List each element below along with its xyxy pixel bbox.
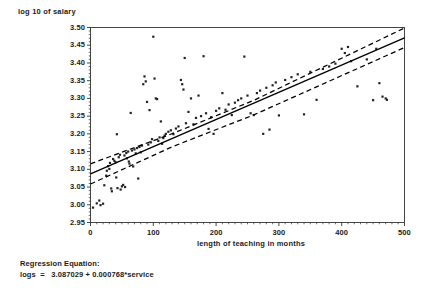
data-point (158, 136, 160, 138)
data-point (250, 112, 252, 114)
data-point (243, 55, 245, 57)
data-point (185, 122, 187, 124)
data-point (103, 184, 105, 186)
data-point (256, 92, 258, 94)
data-point (341, 48, 343, 50)
data-point (344, 52, 346, 54)
data-point (328, 65, 330, 67)
data-point (231, 114, 233, 116)
data-point (272, 84, 274, 86)
regression-equation-heading: Regression Equation: (20, 258, 154, 269)
data-point (167, 131, 169, 133)
data-point (386, 99, 388, 101)
data-point (131, 149, 133, 151)
data-point (151, 138, 153, 140)
data-point (195, 117, 197, 119)
data-point (98, 199, 100, 201)
data-point (246, 94, 248, 96)
data-point (125, 152, 127, 154)
data-point (197, 94, 199, 96)
data-point (334, 63, 336, 65)
data-point (224, 109, 226, 111)
regression-equation-block: Regression Equation: logs = 3.087029 + 0… (20, 258, 154, 280)
data-point (132, 165, 134, 167)
data-point (215, 110, 217, 112)
data-point (240, 97, 242, 99)
data-point (111, 190, 113, 192)
y-tick-label: 3.10 (51, 164, 85, 173)
data-point (237, 99, 239, 101)
data-point (378, 82, 380, 84)
scatter-points (92, 36, 388, 209)
data-point (372, 99, 374, 101)
data-point (303, 113, 305, 115)
data-point (156, 98, 158, 100)
data-point (130, 112, 132, 114)
data-point (182, 88, 184, 90)
y-tick-label: 3.45 (51, 40, 85, 49)
data-point (128, 160, 130, 162)
x-tick-label: 500 (388, 228, 422, 237)
data-point (147, 143, 149, 145)
data-point (284, 79, 286, 81)
data-point (92, 207, 94, 209)
data-point (165, 133, 167, 135)
data-point (137, 177, 139, 179)
x-tick-label: 0 (74, 228, 108, 237)
x-tick-label: 100 (136, 228, 170, 237)
data-point (212, 133, 214, 135)
data-point (123, 154, 125, 156)
data-point (381, 96, 383, 98)
y-tick-label: 3.05 (51, 182, 85, 191)
y-tick-label: 3.15 (51, 147, 85, 156)
y-tick-label: 2.95 (51, 218, 85, 227)
x-tick-label: 200 (199, 228, 233, 237)
data-point (268, 129, 270, 131)
y-tick-label: 3.35 (51, 76, 85, 85)
data-point (181, 83, 183, 85)
data-point (160, 120, 162, 122)
regression-equation-text: logs = 3.087029 + 0.000768*service (20, 269, 154, 280)
data-point (127, 150, 129, 152)
confidence-band-line (91, 48, 405, 185)
data-point (136, 147, 138, 149)
y-tick-label: 3.00 (51, 200, 85, 209)
data-point (221, 92, 223, 94)
data-point (265, 87, 267, 89)
data-point (170, 129, 172, 131)
data-point (120, 188, 122, 190)
data-point (115, 176, 117, 178)
data-point (275, 81, 277, 83)
data-point (187, 111, 189, 113)
data-point (228, 103, 230, 105)
regression-scatter-figure: log 10 of salary 3.503.453.403.353.303.2… (0, 0, 424, 290)
data-point (262, 133, 264, 135)
data-point (128, 163, 130, 165)
data-point (152, 36, 154, 38)
data-point (184, 57, 186, 59)
data-point (202, 55, 204, 57)
data-point (99, 204, 101, 206)
data-point (116, 187, 118, 189)
data-point (290, 76, 292, 78)
axis-ticks (87, 28, 405, 227)
data-point (322, 68, 324, 70)
data-point (175, 127, 177, 129)
data-point (207, 128, 209, 130)
y-tick-label: 3.40 (51, 58, 85, 67)
data-point (148, 109, 150, 111)
data-point (234, 102, 236, 104)
y-tick-label: 3.20 (51, 129, 85, 138)
data-point (143, 75, 145, 77)
data-point (190, 97, 192, 99)
data-point (142, 83, 144, 85)
data-point (96, 202, 98, 204)
x-axis-title: length of teaching in months (0, 239, 424, 248)
data-point (347, 46, 349, 48)
data-point (133, 148, 135, 150)
data-point (200, 115, 202, 117)
data-point (153, 77, 155, 79)
y-tick-label: 3.50 (51, 23, 85, 32)
data-point (177, 125, 179, 127)
data-point (356, 85, 358, 87)
